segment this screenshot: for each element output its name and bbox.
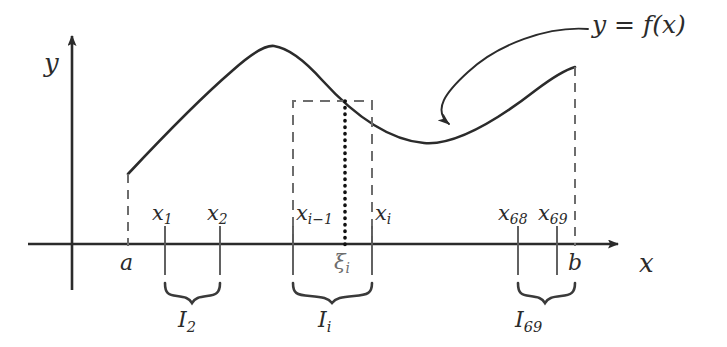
tick-label-x68-base: x: [498, 201, 510, 225]
tick-label-xi-minus-1-base: x: [296, 201, 308, 225]
tick-label-x2-base: x: [207, 201, 219, 225]
interval-braces: [165, 283, 575, 303]
tick-label-x1-sub: 1: [164, 211, 173, 227]
tick-label-x1-base: x: [152, 201, 164, 225]
brace-I69: [518, 283, 575, 303]
interval-label-I2-sub: 2: [187, 319, 196, 335]
tick-label-x1: x1: [152, 203, 173, 224]
brace-Ii: [293, 283, 372, 303]
function-curve: [128, 46, 575, 174]
callout-arrow: [441, 29, 588, 124]
curve-equation-label: y = f(x): [592, 12, 686, 37]
endpoint-label-a: a: [120, 252, 133, 274]
axes-group: [28, 36, 618, 290]
tick-label-xi-minus-1-sub: i−1: [308, 211, 333, 227]
tick-label-x68: x68: [498, 203, 527, 224]
tick-label-x2: x2: [207, 203, 228, 224]
tick-label-xi: xi: [375, 203, 391, 224]
tick-label-xi-minus-1: xi−1: [296, 203, 333, 224]
brace-I2: [165, 283, 220, 303]
interval-label-Ii: Ii: [318, 309, 331, 331]
tick-label-x69: x69: [538, 203, 567, 224]
interval-label-I69: I69: [515, 309, 542, 331]
y-axis-label: y: [44, 50, 59, 76]
function-curve-group: [128, 46, 575, 174]
sample-point-label-base: ξ: [334, 250, 346, 274]
interval-label-Ii-base: I: [318, 307, 327, 332]
interval-label-I2: I2: [178, 309, 196, 331]
tick-label-x68-sub: 68: [510, 211, 528, 227]
interval-label-I2-base: I: [178, 307, 187, 332]
endpoint-label-b: b: [568, 252, 582, 274]
interval-label-I69-base: I: [515, 307, 524, 332]
figure-canvas: [0, 0, 727, 347]
interval-label-Ii-sub: i: [327, 319, 332, 335]
partition-tick-marks: [165, 226, 557, 275]
tick-label-x69-sub: 69: [550, 211, 568, 227]
tick-label-xi-sub: i: [387, 211, 391, 227]
sample-point-label-sub: i: [346, 260, 350, 276]
sample-point-label: ξi: [334, 252, 350, 273]
riemann-sum-figure: y x y = f(x) a b x1 x2 xi−1 xi x68 x69 ξ…: [0, 0, 727, 347]
tick-label-x2-sub: 2: [219, 211, 228, 227]
tick-label-xi-base: x: [375, 201, 387, 225]
x-axis-label: x: [639, 250, 654, 276]
tick-label-x69-base: x: [538, 201, 550, 225]
callout-arrow-group: [441, 29, 588, 124]
interval-label-I69-sub: 69: [524, 319, 542, 335]
